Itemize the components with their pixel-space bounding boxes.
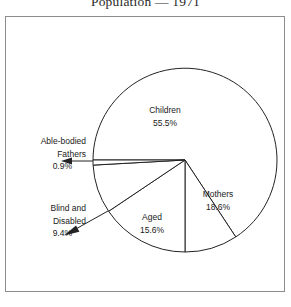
- pie-label-blind-and-disabled: Blind and Disabled 9.4%: [8, 202, 86, 240]
- pie-label-aged-value: 15.6%: [123, 224, 181, 237]
- pie-label-able-bodied-fathers-name-line1: Able-bodied: [8, 135, 86, 148]
- pie-label-aged: Aged 15.6%: [123, 211, 181, 236]
- pie-label-children-name: Children: [120, 104, 210, 117]
- pie-label-mothers-name: Mothers: [185, 188, 251, 201]
- pie-label-children: Children 55.5%: [120, 104, 210, 129]
- chart-page: Population — 1971 Children 55.5% Mothers…: [0, 0, 291, 307]
- pie-label-blind-and-disabled-value: 9.4%: [8, 227, 86, 240]
- pie-label-blind-and-disabled-name-line1: Blind and: [8, 202, 86, 215]
- pie-label-children-value: 55.5%: [120, 117, 210, 130]
- pie-label-able-bodied-fathers: Able-bodied Fathers 0.9%: [8, 135, 86, 173]
- pie-label-mothers-value: 18.6%: [185, 201, 251, 214]
- pie-label-mothers: Mothers 18.6%: [185, 188, 251, 213]
- pie-label-able-bodied-fathers-name-line2: Fathers: [8, 148, 86, 161]
- pie-label-able-bodied-fathers-value: 0.9%: [8, 160, 86, 173]
- pie-label-aged-name: Aged: [123, 211, 181, 224]
- pie-label-blind-and-disabled-name-line2: Disabled: [8, 215, 86, 228]
